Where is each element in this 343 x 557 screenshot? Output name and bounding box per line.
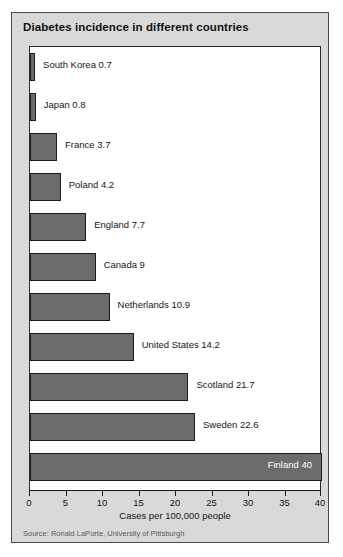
bar-row: Canada 9 xyxy=(30,247,320,287)
bar[interactable] xyxy=(30,413,195,441)
bar[interactable] xyxy=(30,173,61,201)
bar-value-label: France 3.7 xyxy=(65,139,110,151)
bar-row: Netherlands 10.9 xyxy=(30,287,320,327)
bar[interactable] xyxy=(30,53,35,81)
x-axis-tick-label: 15 xyxy=(133,497,144,508)
x-axis-tick-label: 40 xyxy=(315,497,326,508)
bar-row: Poland 4.2 xyxy=(30,167,320,207)
x-axis-tick xyxy=(29,490,30,496)
bar-value-label: Scotland 21.7 xyxy=(196,379,254,391)
plot-area: South Korea 0.7Japan 0.8France 3.7Poland… xyxy=(29,46,321,490)
chart-title: Diabetes incidence in different countrie… xyxy=(23,21,249,33)
bar-value-label: England 7.7 xyxy=(94,219,145,231)
bar-row: Sweden 22.6 xyxy=(30,407,320,447)
x-axis-line: 0510152025303540 xyxy=(29,490,321,491)
x-axis-tick xyxy=(139,490,140,496)
x-axis-tick-label: 35 xyxy=(279,497,290,508)
bar[interactable] xyxy=(30,333,134,361)
x-axis-tick xyxy=(285,490,286,496)
bar[interactable] xyxy=(30,213,86,241)
x-axis-title: Cases per 100,000 people xyxy=(29,510,321,521)
bar[interactable] xyxy=(30,133,57,161)
bar-value-label: Japan 0.8 xyxy=(44,99,86,111)
bar-series: South Korea 0.7Japan 0.8France 3.7Poland… xyxy=(30,47,320,490)
x-axis-tick xyxy=(66,490,67,496)
x-axis-tick-label: 30 xyxy=(243,497,254,508)
bar-value-label: Netherlands 10.9 xyxy=(118,299,190,311)
bar-row: France 3.7 xyxy=(30,127,320,167)
x-axis-tick xyxy=(102,490,103,496)
x-axis-tick-label: 20 xyxy=(170,497,181,508)
source-note: Source: Ronald LaPorte, University of Pi… xyxy=(23,529,184,538)
bar-row: Scotland 21.7 xyxy=(30,367,320,407)
bar-value-label: Poland 4.2 xyxy=(69,179,114,191)
bar-value-label: United States 14.2 xyxy=(142,339,220,351)
x-axis-tick xyxy=(175,490,176,496)
bar-row: Finland 40 xyxy=(30,447,320,487)
bar-value-label: Canada 9 xyxy=(104,259,145,271)
bar[interactable] xyxy=(30,293,110,321)
bar[interactable] xyxy=(30,373,188,401)
chart-panel: Diabetes incidence in different countrie… xyxy=(11,12,329,543)
bar-row: United States 14.2 xyxy=(30,327,320,367)
bar-value-label: Sweden 22.6 xyxy=(203,419,258,431)
x-axis-tick-label: 25 xyxy=(206,497,217,508)
bar[interactable] xyxy=(30,253,96,281)
bar-row: Japan 0.8 xyxy=(30,87,320,127)
bar-value-label: Finland 40 xyxy=(268,459,312,471)
x-axis-tick-label: 0 xyxy=(26,497,31,508)
bar-row: South Korea 0.7 xyxy=(30,47,320,87)
bar-row: England 7.7 xyxy=(30,207,320,247)
bar[interactable] xyxy=(30,93,36,121)
x-axis-tick-label: 10 xyxy=(97,497,108,508)
bar-value-label: South Korea 0.7 xyxy=(43,59,112,71)
x-axis-tick xyxy=(212,490,213,496)
x-axis-tick xyxy=(320,490,321,496)
x-axis-tick xyxy=(248,490,249,496)
x-axis-tick-label: 5 xyxy=(63,497,68,508)
